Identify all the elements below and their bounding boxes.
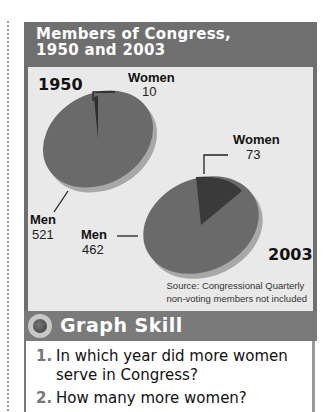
leader-men-1950	[54, 191, 68, 212]
graph-skill-title: Graph Skill	[60, 314, 183, 336]
women-value-2003: 73	[246, 148, 260, 162]
men-value-1950: 521	[32, 228, 54, 242]
question-number: 1.	[36, 347, 56, 366]
question-number: 2.	[36, 389, 56, 408]
leader-women-2003	[204, 155, 228, 174]
source-line: Source: Congressional Quarterly	[167, 279, 307, 292]
circle-bullet-icon	[28, 314, 52, 338]
pie-charts	[28, 67, 313, 311]
chart-header: Members of Congress, 1950 and 2003	[24, 22, 317, 64]
women-label-1950: Women	[128, 71, 175, 85]
chart-area: 1950 Women 10 Men 521 Women 73 Men 462 2…	[24, 64, 317, 311]
note-line: non-voting members not included	[167, 292, 307, 305]
chart-panel: Members of Congress, 1950 and 2003	[24, 22, 317, 412]
question-item: 1.In which year did more women serve in …	[36, 347, 296, 385]
dotted-margin-line	[7, 20, 9, 412]
pie-2003	[127, 158, 279, 297]
graph-skill-bar: Graph Skill	[24, 311, 317, 341]
chart-canvas: 1950 Women 10 Men 521 Women 73 Men 462 2…	[28, 67, 313, 311]
men-label-1950: Men	[30, 213, 56, 227]
chart-title: Members of Congress, 1950 and 2003	[36, 26, 231, 58]
year-label-1950: 1950	[38, 75, 83, 94]
year-label-2003: 2003	[268, 245, 313, 264]
source-note: Source: Congressional Quarterly non-voti…	[167, 279, 307, 305]
men-label-2003: Men	[81, 228, 107, 242]
men-value-2003: 462	[82, 243, 104, 257]
question-item: 2.How many more women?	[36, 389, 296, 408]
women-label-2003: Women	[233, 133, 280, 147]
questions-list: 1.In which year did more women serve in …	[24, 341, 315, 412]
women-value-1950: 10	[142, 85, 156, 99]
question-text: How many more women?	[56, 389, 296, 408]
question-text: In which year did more women serve in Co…	[56, 347, 296, 385]
